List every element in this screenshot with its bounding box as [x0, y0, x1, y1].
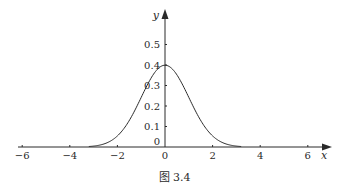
figure-caption: 图 3.4	[0, 168, 349, 184]
y-tick-label: 0	[154, 136, 160, 147]
y-arrow-icon	[162, 9, 169, 19]
y-axis-label: y	[152, 9, 160, 22]
x-tick-label: 6	[305, 150, 311, 161]
x-tick-label: −6	[15, 150, 30, 161]
x-tick-label: 4	[257, 150, 263, 161]
y-tick-label: 0.5	[144, 39, 160, 50]
x-axis-label: x	[321, 149, 328, 162]
y-tick-label: 0.2	[144, 101, 160, 112]
x-tick-label: 0	[162, 150, 168, 161]
y-tick-label: 0.1	[144, 121, 160, 132]
x-tick-label: −2	[110, 150, 125, 161]
x-tick-label: 2	[209, 150, 215, 161]
x-tick-label: −4	[62, 150, 77, 161]
x-axis: −6−4−20246x	[15, 144, 332, 163]
normal-density-chart: −6−4−20246x 00.10.20.30.40.5y	[0, 0, 349, 192]
y-axis: 00.10.20.30.40.5y	[144, 9, 168, 147]
